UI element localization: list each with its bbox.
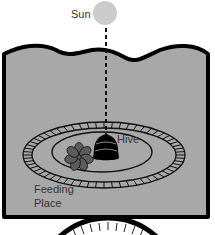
sun-label: Sun xyxy=(71,8,91,20)
bottom-dial xyxy=(36,218,180,235)
feeding-place-label-line2: Place xyxy=(34,197,62,209)
sun-icon xyxy=(93,1,117,25)
hive-label: Hive xyxy=(117,133,139,145)
feeding-place-label-line1: Feeding xyxy=(34,183,74,195)
bee-dance-diagram: Sun Hive Feeding Place xyxy=(0,0,215,235)
